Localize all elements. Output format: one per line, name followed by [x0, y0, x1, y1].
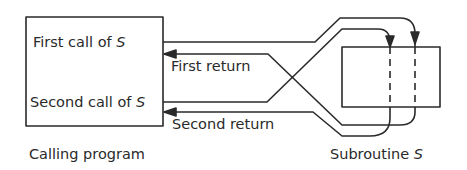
subroutine-label: Subroutine S — [330, 147, 423, 162]
first-call-arrow-icon — [411, 32, 419, 44]
first-call-path — [163, 18, 415, 47]
subroutine-text: Subroutine — [330, 146, 414, 162]
first-call-text: First call of — [33, 34, 116, 50]
first-return-arrow-icon — [164, 50, 176, 58]
second-call-label: Second call of S — [30, 95, 145, 110]
subroutine-box — [342, 47, 440, 107]
second-call-arrow-icon — [386, 36, 394, 47]
first-call-label: First call of S — [33, 35, 125, 50]
first-return-label: First return — [171, 59, 250, 74]
subroutine-var: S — [414, 146, 423, 162]
flow-diagram — [0, 0, 467, 170]
second-return-label: Second return — [172, 117, 274, 132]
calling-program-label: Calling program — [29, 147, 145, 162]
second-call-text: Second call of — [30, 94, 136, 110]
first-call-var: S — [116, 34, 125, 50]
second-return-arrow-icon — [164, 108, 176, 116]
second-call-var: S — [136, 94, 145, 110]
